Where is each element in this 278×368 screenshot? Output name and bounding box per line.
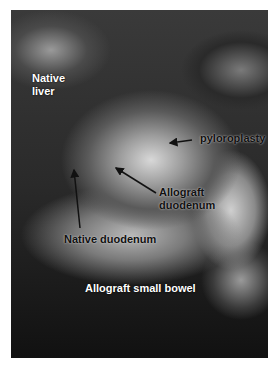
label-native-liver-line2: liver — [32, 85, 65, 98]
allograft-duodenum-arrow-icon — [116, 168, 156, 193]
pyloroplasty-arrow-icon — [170, 140, 192, 143]
label-native-duodenum: Native duodenum — [64, 233, 156, 246]
label-allograft-duodenum: Allograft duodenum — [159, 186, 215, 212]
label-native-liver-line1: Native — [32, 72, 65, 85]
label-native-liver: Native liver — [32, 72, 65, 98]
native-duodenum-arrow-icon — [74, 170, 80, 228]
annotation-arrows — [0, 0, 278, 368]
label-pyloroplasty: pyloroplasty — [200, 132, 265, 145]
label-allograft-duodenum-line1: Allograft — [159, 186, 215, 199]
label-allograft-small-bowel: Allograft small bowel — [85, 282, 196, 295]
label-allograft-duodenum-line2: duodenum — [159, 199, 215, 212]
